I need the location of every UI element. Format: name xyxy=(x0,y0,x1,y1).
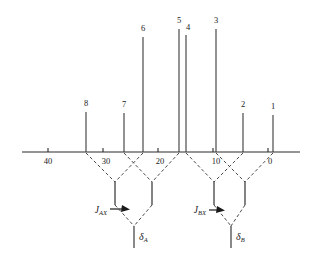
peak-4: 4 xyxy=(186,22,191,152)
delta-b-label: δB xyxy=(236,231,245,243)
axis-tick-label-40: 40 xyxy=(44,156,53,166)
splitting-tree-b xyxy=(186,153,273,248)
tree-b-merge-left xyxy=(214,205,231,226)
peak-label-2: 2 xyxy=(241,99,245,109)
peak-5: 5 xyxy=(177,15,181,152)
tree-a-branch-6 xyxy=(115,153,143,182)
axis-tick-20: 20 xyxy=(156,148,165,166)
axis-tick-label-10: 10 xyxy=(212,156,221,166)
annotation-delta-a: δA xyxy=(139,231,148,243)
axis-tick-label-30: 30 xyxy=(102,156,111,166)
peak-group: 8 7 6 5 4 3 xyxy=(84,15,275,152)
peak-label-6: 6 xyxy=(141,23,145,33)
peak-label-1: 1 xyxy=(271,101,275,111)
tree-a-branch-7 xyxy=(124,153,152,182)
tree-b-merge-right xyxy=(231,205,245,226)
axis-tick-40: 40 xyxy=(44,148,53,166)
peak-label-7: 7 xyxy=(122,99,126,109)
peak-label-4: 4 xyxy=(186,22,191,32)
peak-2: 2 xyxy=(241,99,245,152)
annotation-j-ax: JAX xyxy=(95,205,130,216)
j-bx-label: JBX xyxy=(194,205,207,216)
tree-b-branch-4 xyxy=(186,153,214,182)
peak-label-8: 8 xyxy=(84,98,88,108)
j-bx-arrow-head xyxy=(216,206,225,213)
peak-label-5: 5 xyxy=(177,15,181,25)
peak-6: 6 xyxy=(141,23,145,152)
peak-label-3: 3 xyxy=(214,15,218,25)
axis-tick-label-20: 20 xyxy=(156,156,165,166)
spectrum-canvas: 40 30 20 10 0 8 xyxy=(0,0,316,258)
peak-1: 1 xyxy=(271,101,275,152)
delta-a-label: δA xyxy=(139,231,148,243)
annotation-j-bx: JBX xyxy=(194,205,225,216)
tree-b-branch-3 xyxy=(216,153,245,182)
annotation-delta-b: δB xyxy=(236,231,245,243)
tree-a-branch-8 xyxy=(86,153,115,182)
tree-b-branch-1 xyxy=(245,153,273,182)
splitting-diagram-figure: 40 30 20 10 0 8 xyxy=(0,0,316,258)
peak-3: 3 xyxy=(214,15,218,152)
j-ax-label: JAX xyxy=(95,205,108,216)
peak-7: 7 xyxy=(122,99,126,152)
axis-tick-30: 30 xyxy=(102,148,111,166)
splitting-tree-a xyxy=(86,153,179,248)
j-ax-arrow-head xyxy=(121,205,130,212)
frequency-axis: 40 30 20 10 0 xyxy=(22,148,300,166)
peak-8: 8 xyxy=(84,98,88,152)
tree-a-merge-right xyxy=(134,205,152,226)
